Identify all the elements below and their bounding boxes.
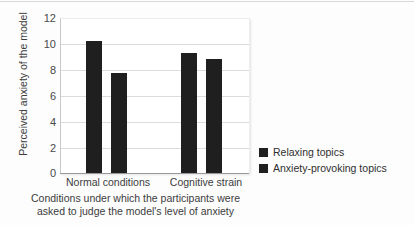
bar-cognitive-anxiety [206, 59, 222, 174]
x-tick-cognitive-strain: Cognitive strain [160, 176, 252, 188]
caption-line-1: Conditions under which the participants … [18, 192, 253, 205]
x-tick-normal-conditions: Normal conditions [58, 176, 158, 188]
y-axis-title: Perceived anxiety of the model [17, 4, 29, 164]
bar-normal-anxiety [111, 73, 127, 174]
chart-legend: Relaxing topics Anxiety-provoking topics [259, 145, 387, 177]
legend-swatch-icon [259, 164, 268, 173]
legend-item-anxiety-provoking-topics: Anxiety-provoking topics [259, 161, 387, 175]
bar-cognitive-relaxing [181, 53, 197, 174]
caption-line-2: asked to judge the model's level of anxi… [18, 205, 253, 218]
x-axis-caption: Conditions under which the participants … [18, 192, 253, 217]
legend-swatch-icon [259, 148, 268, 157]
x-axis-line [60, 173, 249, 174]
legend-item-relaxing-topics: Relaxing topics [259, 145, 387, 159]
legend-label-relaxing-topics: Relaxing topics [273, 146, 344, 158]
top-divider [0, 1, 414, 2]
bar-normal-relaxing [86, 41, 102, 174]
legend-label-anxiety-provoking-topics: Anxiety-provoking topics [273, 162, 387, 174]
y-tick-0: 0 [10, 168, 56, 179]
plot-area [60, 18, 250, 174]
bar-chart-figure: 12 10 8 6 4 2 0 Perceived anxiety of the… [0, 0, 414, 225]
